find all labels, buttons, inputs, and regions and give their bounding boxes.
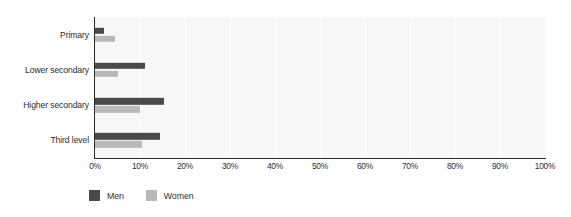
y-axis-label: Lower secondary	[25, 65, 89, 75]
x-axis-tick-label: 40%	[267, 161, 283, 171]
legend-label: Men	[107, 191, 124, 201]
legend-item-men[interactable]: Men	[89, 190, 124, 201]
bar-group	[95, 52, 545, 87]
bar-women[interactable]	[95, 106, 140, 112]
bar-pair	[95, 27, 545, 41]
y-axis-label: Primary	[60, 30, 89, 40]
bar-women[interactable]	[95, 141, 142, 147]
x-axis-tick-label: 30%	[222, 161, 238, 171]
x-axis-tick-label: 90%	[492, 161, 508, 171]
x-axis-tick-label: 70%	[402, 161, 418, 171]
bar-men[interactable]	[95, 98, 164, 104]
legend-item-women[interactable]: Women	[146, 190, 194, 201]
legend-label: Women	[164, 191, 194, 201]
bar-pair	[95, 133, 545, 147]
x-axis-tick-label: 100%	[535, 161, 556, 171]
bar-chart: PrimaryLower secondaryHigher secondaryTh…	[0, 0, 571, 217]
legend: MenWomen	[89, 190, 215, 201]
x-axis-tick-label: 50%	[312, 161, 328, 171]
bar-group	[95, 17, 545, 52]
x-axis-tick-label: 80%	[447, 161, 463, 171]
bar-men[interactable]	[95, 63, 145, 69]
x-axis-tick-label: 0%	[89, 161, 101, 171]
bar-pair	[95, 98, 545, 112]
bar-men[interactable]	[95, 27, 104, 33]
x-axis-tick-label: 60%	[357, 161, 373, 171]
bar-group	[95, 88, 545, 123]
bar-group	[95, 123, 545, 158]
plot-area	[95, 17, 545, 158]
bar-men[interactable]	[95, 133, 160, 139]
legend-swatch-men	[89, 190, 100, 201]
y-axis-label: Third level	[50, 135, 89, 145]
legend-swatch-women	[146, 190, 157, 201]
x-axis-tick-label: 20%	[177, 161, 193, 171]
bar-women[interactable]	[95, 35, 115, 41]
x-axis-line	[94, 158, 546, 159]
x-axis-tick-label: 10%	[132, 161, 148, 171]
y-axis-line	[94, 17, 95, 159]
y-axis-label: Higher secondary	[23, 100, 89, 110]
gridline	[545, 17, 546, 158]
bar-women[interactable]	[95, 71, 118, 77]
bar-pair	[95, 63, 545, 77]
